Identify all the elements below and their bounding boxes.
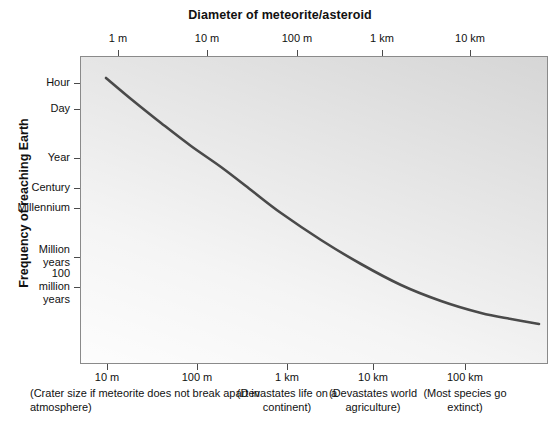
top-tick-mark [207,50,208,56]
chart-figure: Diameter of meteorite/asteroid Frequency… [0,0,560,440]
bottom-tick-mark [373,364,374,370]
y-tick-mark [74,287,80,288]
top-tick-label: 10 km [455,32,485,44]
y-tick-label-line: 100 [39,267,70,280]
y-tick-mark [74,158,80,159]
y-tick-label-line: Year [48,151,70,164]
top-tick-label: 1 m [109,32,127,44]
data-series-line [106,78,539,324]
curve-canvas [81,57,548,364]
bottom-tick-label: 10 m [95,371,119,383]
y-tick-label: Hour [46,76,70,89]
top-tick-label: 100 m [282,32,313,44]
y-tick-label-line: Day [50,102,70,115]
y-tick-label-line: years [39,293,70,306]
axis-annotation: (Most species go extinct) [410,386,520,414]
top-tick-mark [470,50,471,56]
y-tick-label-line: Millennium [17,201,70,214]
y-tick-mark [74,208,80,209]
bottom-tick-label: 100 km [447,371,483,383]
top-tick-label: 1 km [370,32,394,44]
chart-title: Diameter of meteorite/asteroid [0,8,560,22]
bottom-tick-mark [287,364,288,370]
y-tick-label: Day [50,102,70,115]
bottom-tick-label: 1 km [275,371,299,383]
y-tick-mark [74,257,80,258]
y-tick-mark [74,188,80,189]
y-tick-label: Century [31,181,70,194]
bottom-tick-mark [197,364,198,370]
y-tick-label-line: Century [31,181,70,194]
plot-area [80,56,548,364]
y-tick-mark [74,83,80,84]
y-tick-label: 100millionyears [39,267,70,306]
top-tick-mark [382,50,383,56]
y-tick-mark [74,109,80,110]
bottom-tick-mark [465,364,466,370]
bottom-tick-label: 100 m [182,371,213,383]
bottom-tick-mark [107,364,108,370]
top-tick-mark [297,50,298,56]
y-tick-label: Millionyears [39,243,70,269]
y-tick-label: Year [48,151,70,164]
y-tick-label-line: Million [39,243,70,256]
bottom-tick-label: 10 km [358,371,388,383]
y-tick-label-line: million [39,280,70,293]
y-tick-label: Millennium [17,201,70,214]
y-tick-label-line: Hour [46,76,70,89]
top-tick-mark [118,50,119,56]
top-tick-label: 10 m [195,32,219,44]
